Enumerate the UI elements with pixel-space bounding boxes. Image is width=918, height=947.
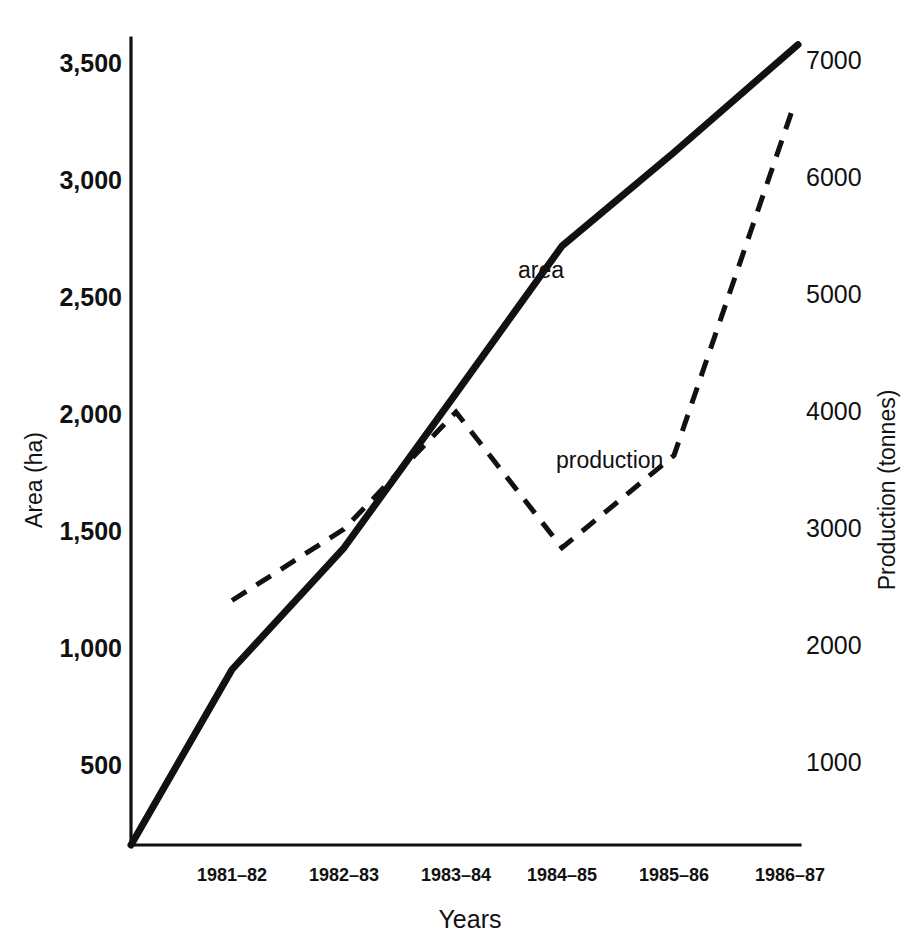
line-chart-plot: 3,500 3,000 2,500 2,000 1,500 1,000 500 … (0, 0, 918, 947)
y-left-tick-2500: 2,500 (59, 283, 122, 311)
chart-container: 3,500 3,000 2,500 2,000 1,500 1,000 500 … (0, 0, 918, 947)
series-line-production (232, 102, 795, 601)
series-annotation-area: area (518, 257, 564, 283)
y-right-tick-6000: 6000 (806, 163, 862, 191)
y-left-tick-2000: 2,000 (59, 400, 122, 428)
x-tick-1983-84: 1983–84 (421, 865, 491, 885)
x-axis-ticks: 1981–82 1982–83 1983–84 1984–85 1985–86 … (197, 865, 825, 885)
y-right-tick-2000: 2000 (806, 631, 862, 659)
series-annotation-production: production (556, 447, 663, 473)
x-axis-title: Years (438, 905, 501, 933)
y-right-tick-1000: 1000 (806, 748, 862, 776)
y-left-tick-3000: 3,000 (59, 166, 122, 194)
y-axis-left-ticks: 3,500 3,000 2,500 2,000 1,500 1,000 500 (59, 49, 122, 779)
x-tick-1984-85: 1984–85 (527, 865, 597, 885)
y-left-tick-500: 500 (80, 751, 122, 779)
y-axis-right-ticks: 7000 6000 5000 4000 3000 2000 1000 (806, 46, 862, 776)
y-left-tick-3500: 3,500 (59, 49, 122, 77)
x-tick-1985-86: 1985–86 (639, 865, 709, 885)
y-right-tick-4000: 4000 (806, 397, 862, 425)
x-tick-1986-87: 1986–87 (755, 865, 825, 885)
y-right-tick-5000: 5000 (806, 280, 862, 308)
x-tick-1982-83: 1982–83 (309, 865, 379, 885)
y-left-tick-1500: 1,500 (59, 517, 122, 545)
y-left-tick-1000: 1,000 (59, 634, 122, 662)
y-axis-right-title: Production (tonnes) (874, 390, 900, 591)
x-tick-1981-82: 1981–82 (197, 865, 267, 885)
y-right-tick-3000: 3000 (806, 514, 862, 542)
y-axis-left-title: Area (ha) (21, 432, 47, 528)
series-line-area (131, 45, 798, 845)
y-right-tick-7000: 7000 (806, 46, 862, 74)
